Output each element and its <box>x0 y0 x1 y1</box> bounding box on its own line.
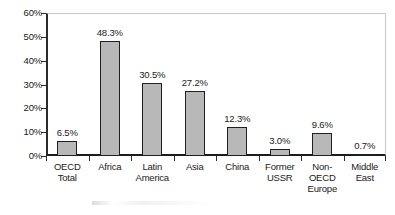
y-axis-tick-label: 0% <box>0 151 42 161</box>
bar-value-label: 6.5% <box>57 128 78 138</box>
x-axis-category-label-line: Middle <box>344 161 387 172</box>
bar-slot: 48.3% <box>89 13 132 156</box>
x-axis-category-label-line: Africa <box>89 161 132 172</box>
x-axis-category-label: Africa <box>89 161 132 172</box>
bar <box>185 91 205 156</box>
bar-value-label: 12.3% <box>224 114 250 124</box>
bar-value-label: 27.2% <box>182 78 208 88</box>
bar-value-label: 48.3% <box>97 28 123 38</box>
y-axis-tick-label: 30% <box>0 80 42 90</box>
bar <box>312 133 332 156</box>
x-axis-category-label: MiddleEast <box>344 161 387 183</box>
bar-slot: 0.7% <box>344 13 387 156</box>
y-axis-tick-label: 50% <box>0 32 42 42</box>
x-axis-category-label-line: Latin <box>131 161 174 172</box>
bar-slot: 12.3% <box>216 13 259 156</box>
x-axis-category-label-line: East <box>344 172 387 183</box>
x-axis-category-label-line: Former <box>259 161 302 172</box>
bar-chart-figure: 60%50%40%30%20%10%0% 6.5%48.3%30.5%27.2%… <box>0 0 395 215</box>
y-axis: 60%50%40%30%20%10%0% <box>0 0 42 215</box>
x-axis-category-label-line: Total <box>46 172 89 183</box>
y-axis-tick-label: 20% <box>0 103 42 113</box>
x-axis-category-label-line: OECD <box>46 161 89 172</box>
scan-artifact <box>92 201 210 205</box>
bar-slot: 27.2% <box>174 13 217 156</box>
bar-value-label: 9.6% <box>312 120 333 130</box>
x-axis-category-label-line: Asia <box>174 161 217 172</box>
bar-series: 6.5%48.3%30.5%27.2%12.3%3.0%9.6%0.7% <box>46 13 386 156</box>
x-axis: OECDTotalAfricaLatinAmericaAsiaChinaForm… <box>46 161 386 215</box>
bar-value-label: 30.5% <box>139 70 165 80</box>
x-axis-category-label: FormerUSSR <box>259 161 302 183</box>
bar <box>100 41 120 156</box>
y-axis-tick-label: 10% <box>0 127 42 137</box>
bar-slot: 9.6% <box>301 13 344 156</box>
bar-slot: 30.5% <box>131 13 174 156</box>
x-axis-category-label-line: Europe <box>301 183 344 194</box>
x-axis-category-label: China <box>216 161 259 172</box>
bar-slot: 6.5% <box>46 13 89 156</box>
bar <box>270 149 290 156</box>
bar <box>227 127 247 156</box>
bar-value-label: 0.7% <box>354 141 375 151</box>
bar-slot: 3.0% <box>259 13 302 156</box>
bar <box>57 141 77 156</box>
x-axis-category-label-line: Non- <box>301 161 344 172</box>
x-axis-category-label-line: America <box>131 172 174 183</box>
x-axis-category-label: Asia <box>174 161 217 172</box>
x-axis-category-label: LatinAmerica <box>131 161 174 183</box>
y-axis-tick-label: 60% <box>0 8 42 18</box>
x-axis-category-label: Non-OECDEurope <box>301 161 344 194</box>
y-axis-tick-label: 40% <box>0 56 42 66</box>
bar <box>142 83 162 156</box>
x-axis-category-label-line: China <box>216 161 259 172</box>
x-axis-category-label-line: USSR <box>259 172 302 183</box>
x-axis-category-label-line: OECD <box>301 172 344 183</box>
bar-value-label: 3.0% <box>269 136 290 146</box>
x-axis-category-label: OECDTotal <box>46 161 89 183</box>
